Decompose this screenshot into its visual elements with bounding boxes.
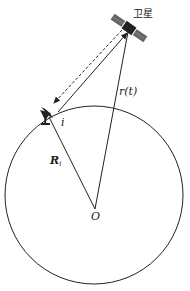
satellite-geometry-diagram (0, 0, 190, 291)
uplink-arrow (58, 33, 127, 112)
earth-circle (5, 106, 183, 284)
station-label: i (61, 117, 65, 128)
origin-label: O (91, 211, 100, 222)
downlink-dashed-arrow (54, 30, 122, 103)
station-radius-main: R (50, 154, 59, 167)
station-radius-label: Ri (50, 155, 61, 168)
range-vector-label: r(t) (119, 86, 137, 97)
satellite-range-line (95, 32, 128, 209)
station-radius-subscript: i (59, 160, 61, 168)
satellite-label: 卫星 (133, 9, 153, 19)
